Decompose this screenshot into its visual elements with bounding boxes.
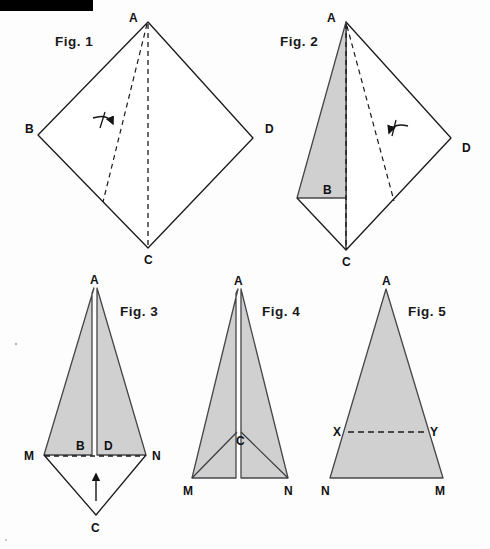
- fig4-label-n: N: [284, 484, 293, 498]
- fig3-label-n: N: [152, 449, 161, 463]
- fig5-label-n: N: [321, 484, 330, 498]
- figure-2: Fig. 2 A B D C: [280, 11, 471, 269]
- fig3-label-c: C: [91, 521, 100, 535]
- fig2-label-d: D: [462, 141, 471, 155]
- fig4-label-m: M: [183, 484, 193, 498]
- fig3-label-d: D: [104, 439, 113, 453]
- fig2-label-c: C: [342, 255, 351, 269]
- fig2-label-a: A: [327, 11, 336, 25]
- fig5-label-y: Y: [430, 425, 438, 439]
- fig3-shaded-left-half: [44, 288, 94, 455]
- figure-canvas: Fig. 1 A B D C Fig. 2 A B D: [0, 0, 490, 549]
- fig2-kite-right: [346, 22, 451, 250]
- fig1-label-c: C: [144, 253, 153, 267]
- fig3-label-b: B: [76, 439, 85, 453]
- fig1-label-d: D: [265, 122, 274, 136]
- fig4-label-a: A: [234, 274, 243, 288]
- fig5-label-x: X: [333, 425, 341, 439]
- fig3-caption: Fig. 3: [120, 304, 158, 319]
- scan-speck: [5, 539, 7, 541]
- black-bar: [0, 0, 93, 11]
- figure-1: Fig. 1 A B D C: [25, 11, 274, 267]
- figure-page: Fig. 1 A B D C Fig. 2 A B D: [0, 0, 490, 549]
- fig1-label-a: A: [129, 11, 138, 25]
- fig1-label-b: B: [25, 122, 34, 136]
- fig1-kite-outline: [38, 22, 253, 248]
- figure-4: Fig. 4 A C M N: [183, 274, 300, 498]
- fig1-caption: Fig. 1: [55, 34, 93, 49]
- fig3-lower-triangle: [44, 455, 146, 515]
- fig4-shaded-left-half: [192, 289, 238, 478]
- fig5-label-m: M: [435, 484, 445, 498]
- fig5-caption: Fig. 5: [408, 304, 446, 319]
- fig4-caption: Fig. 4: [262, 304, 300, 319]
- fig2-label-b: B: [323, 183, 332, 197]
- figure-5: Fig. 5 A X Y N M: [321, 274, 446, 498]
- fig2-caption: Fig. 2: [280, 34, 318, 49]
- fig5-label-a: A: [382, 274, 391, 288]
- fig4-label-c: C: [236, 434, 245, 448]
- fig2-edge-left-c: [297, 198, 346, 250]
- fig3-label-a: A: [90, 273, 99, 287]
- fig3-label-m: M: [24, 449, 34, 463]
- scan-speck: [15, 343, 17, 345]
- figure-3: Fig. 3 A M B D N C: [24, 273, 161, 535]
